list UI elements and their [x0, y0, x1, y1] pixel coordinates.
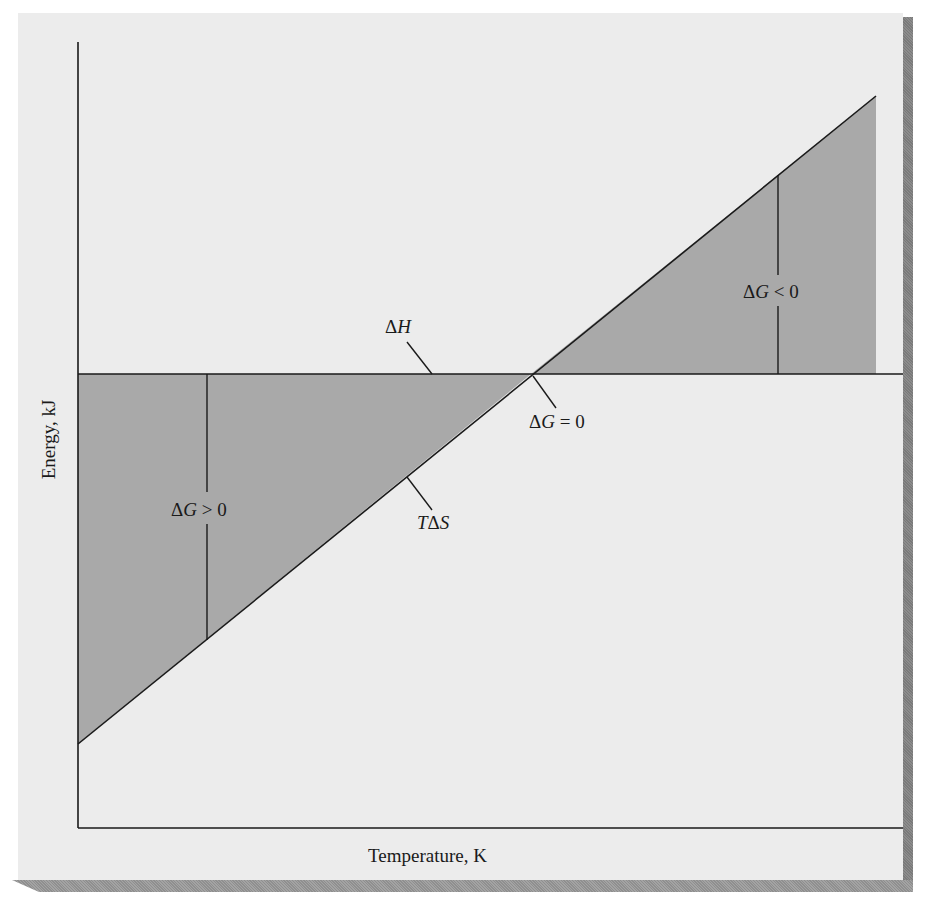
delta-symbol: Δ — [428, 512, 440, 533]
g-var: G — [183, 499, 197, 520]
relation: > 0 — [197, 499, 227, 520]
g-var: G — [755, 281, 769, 302]
entropy-label: TΔS — [417, 513, 449, 532]
relation: < 0 — [769, 281, 799, 302]
delta-symbol: Δ — [171, 499, 183, 520]
x-axis-label: Temperature, K — [368, 846, 487, 865]
dg-negative-label: ΔG < 0 — [743, 282, 799, 301]
plot-area — [0, 0, 927, 902]
delta-symbol: Δ — [743, 281, 755, 302]
dg-positive-label: ΔG > 0 — [171, 500, 227, 519]
dg-zero-label: ΔG = 0 — [529, 412, 585, 431]
enthalpy-label: ΔH — [385, 317, 411, 336]
t-var: T — [417, 512, 428, 533]
s-var: S — [440, 512, 450, 533]
relation: = 0 — [555, 411, 585, 432]
delta-symbol: Δ — [529, 411, 541, 432]
g-var: G — [541, 411, 555, 432]
figure-stage: ΔH ΔG = 0 TΔS ΔG > 0 ΔG < 0 Temperature,… — [0, 0, 927, 902]
entropy-leader — [407, 477, 432, 510]
enthalpy-leader — [407, 342, 432, 374]
delta-symbol: Δ — [385, 316, 397, 337]
enthalpy-var: H — [397, 316, 411, 337]
y-axis-label: Energy, kJ — [39, 385, 58, 495]
zero-leader — [533, 376, 556, 408]
